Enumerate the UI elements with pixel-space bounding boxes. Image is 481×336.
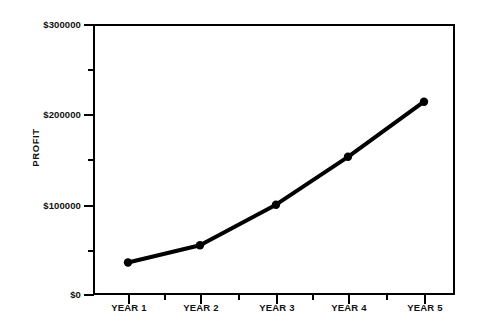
y-tick-50000 [88, 250, 94, 252]
x-tick-label-year-2: YEAR 2 [183, 302, 219, 313]
x-tick-minor-3 [312, 295, 314, 300]
y-tick-0 [84, 294, 94, 296]
x-tick-label-year-1: YEAR 1 [111, 302, 147, 313]
y-tick-label-0: $0 [70, 289, 81, 300]
chart-root: PROFIT $300000 $200000 $100000 $0 YEAR 1… [0, 0, 481, 336]
y-tick-label-100000: $100000 [43, 200, 81, 211]
x-tick-label-year-4: YEAR 4 [331, 302, 367, 313]
y-tick-300000 [84, 24, 94, 26]
x-tick-label-year-5: YEAR 5 [407, 302, 443, 313]
y-tick-250000 [88, 69, 94, 71]
y-tick-200000 [84, 114, 94, 116]
x-tick-minor-4 [386, 295, 388, 300]
y-tick-100000 [84, 205, 94, 207]
plot-area-frame [93, 24, 455, 295]
y-axis-title: PROFIT [30, 108, 41, 188]
y-tick-150000 [88, 159, 94, 161]
y-tick-label-300000: $300000 [43, 19, 81, 30]
y-tick-label-200000: $200000 [43, 109, 81, 120]
x-tick-minor-2 [238, 295, 240, 300]
x-tick-minor-1 [164, 295, 166, 300]
x-tick-label-year-3: YEAR 3 [259, 302, 295, 313]
